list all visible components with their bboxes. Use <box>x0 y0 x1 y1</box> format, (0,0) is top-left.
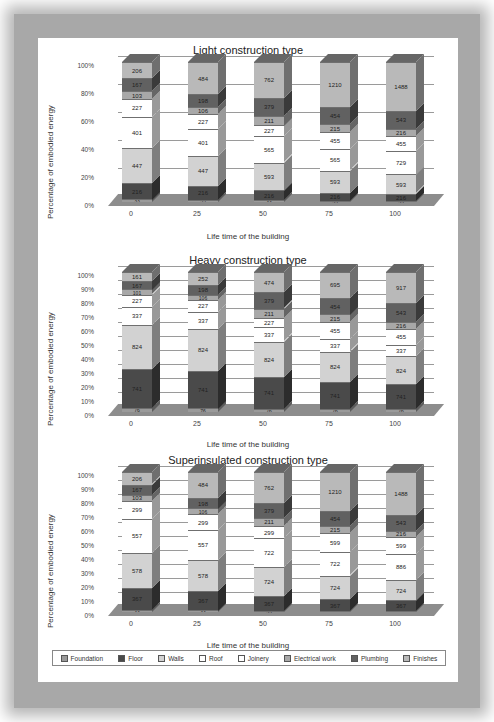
bar-segment-roof: 886 <box>386 554 416 580</box>
legend-swatch-icon <box>403 655 410 662</box>
bar-segment-finishes: 252 <box>188 272 218 285</box>
stacked-bar: 76741824337455216543917 <box>386 272 416 412</box>
bar-side <box>416 54 424 111</box>
x-tick-label: 75 <box>314 620 344 627</box>
bar-segment-roof: 337 <box>122 307 152 325</box>
y-tick-label: 0% <box>68 202 94 209</box>
bar-segment-foundation: 33 <box>188 200 218 202</box>
bar-segment-roof: 557 <box>188 530 218 560</box>
y-tick-label: 20% <box>68 584 94 591</box>
stacked-bar: 33367724722299211379762 <box>254 472 284 612</box>
y-tick-label: 90% <box>68 286 94 293</box>
bar-segment-finishes: 206 <box>122 62 152 78</box>
legend-label: Roof <box>209 655 223 662</box>
bar-segment-floor: 741 <box>320 382 350 409</box>
stacked-bar: 33367578557299106198484 <box>188 472 218 612</box>
bar-segment-roof: 337 <box>188 312 218 329</box>
x-tick-label: 50 <box>248 620 278 627</box>
bar-segment-electrical-work: 215 <box>320 314 350 322</box>
legend-item: Joinery <box>238 655 269 662</box>
bar-segment-walls: 824 <box>386 356 416 384</box>
stacked-bar: 33216447401227106198484 <box>188 62 218 202</box>
bar-segment-electrical-work: 103 <box>122 495 152 501</box>
y-tick-label: 50% <box>68 542 94 549</box>
legend-item: Floor <box>118 655 143 662</box>
bar-segment-finishes: 484 <box>188 472 218 498</box>
bar-segment-foundation: 33 <box>254 200 284 202</box>
bar-segment-electrical-work: 211 <box>254 309 284 318</box>
bar-segment-walls: 824 <box>122 325 152 369</box>
legend-label: Joinery <box>248 655 269 662</box>
bar-segment-plumbing: 167 <box>122 281 152 290</box>
bar-segment-walls: 824 <box>320 352 350 382</box>
y-tick-label: 100% <box>68 62 94 69</box>
y-tick-label: 10% <box>68 398 94 405</box>
bar-segment-electrical-work: 216 <box>386 531 416 537</box>
x-tick-label: 0 <box>116 210 146 217</box>
bar-segment-floor: 741 <box>254 377 284 409</box>
x-tick-label: 25 <box>182 210 212 217</box>
y-tick-label: 20% <box>68 174 94 181</box>
bar-segment-roof: 565 <box>254 136 284 162</box>
bar-segment-walls: 593 <box>386 174 416 193</box>
bar-segment-roof: 337 <box>320 339 350 351</box>
chart-light: Light construction type Percentage of em… <box>38 44 458 244</box>
bar-segment-plumbing: 167 <box>122 78 152 91</box>
bar-segment-foundation: 76 <box>386 409 416 412</box>
legend-item: Roof <box>199 655 223 662</box>
bar-segment-foundation: 76 <box>254 409 284 412</box>
bar-side <box>350 54 358 107</box>
bar-segment-joinery: 599 <box>386 537 416 554</box>
bar-segment-plumbing: 198 <box>188 285 218 295</box>
legend-label: Walls <box>168 655 184 662</box>
bar-side <box>218 321 226 371</box>
bar-side <box>152 361 160 408</box>
y-tick-label: 90% <box>68 486 94 493</box>
x-tick-label: 50 <box>248 420 278 427</box>
bar-segment-finishes: 762 <box>254 62 284 98</box>
bar-segment-finishes: 1488 <box>386 62 416 111</box>
bar-segment-floor: 216 <box>122 183 152 200</box>
bar-side <box>152 317 160 369</box>
y-tick-label: 70% <box>68 314 94 321</box>
bar-segment-joinery: 299 <box>188 514 218 530</box>
bar-segment-foundation: 33 <box>122 610 152 612</box>
bar-segment-roof: 729 <box>386 151 416 175</box>
legend-label: Finishes <box>413 655 437 662</box>
bar-segment-roof: 722 <box>254 538 284 567</box>
chart-superinsulated: Superinsulated construction type Percent… <box>38 454 458 654</box>
x-tick-label: 0 <box>116 620 146 627</box>
x-tick-label: 25 <box>182 620 212 627</box>
bar-segment-walls: 578 <box>188 560 218 591</box>
bar-segment-finishes: 206 <box>122 472 152 484</box>
legend-swatch-icon <box>118 655 125 662</box>
bar-segment-walls: 447 <box>188 156 218 186</box>
bar-segment-joinery: 299 <box>122 501 152 519</box>
bar-segment-electrical-work: 216 <box>386 129 416 136</box>
legend-label: Plumbing <box>361 655 388 662</box>
bar-segment-walls: 578 <box>122 553 152 588</box>
legend-swatch-icon <box>351 655 358 662</box>
y-tick-label: 40% <box>68 556 94 563</box>
stacked-bar: 332165935654552154541210 <box>320 62 350 202</box>
x-tick-label: 100 <box>380 210 410 217</box>
bar-segment-joinery: 227 <box>122 99 152 117</box>
bar-segment-joinery: 299 <box>254 526 284 538</box>
bar-segment-electrical-work: 106 <box>188 107 218 114</box>
bar-side <box>350 464 358 511</box>
bar-segment-joinery: 455 <box>320 132 350 149</box>
bar-segment-roof: 565 <box>320 149 350 170</box>
stacked-bar: 333677248865992165431488 <box>386 472 416 612</box>
chart-heavy: Heavy construction type Percentage of em… <box>38 254 458 454</box>
stacked-bar: 76741824337227101167161 <box>122 272 152 412</box>
y-tick-label: 40% <box>68 146 94 153</box>
bar-segment-roof: 557 <box>122 519 152 553</box>
bar-segment-foundation: 33 <box>122 199 152 202</box>
y-tick-label: 0% <box>68 412 94 419</box>
legend-swatch-icon <box>238 655 245 662</box>
bar-segment-plumbing: 543 <box>386 303 416 322</box>
bar-segment-joinery: 455 <box>386 329 416 345</box>
bar-segment-finishes: 1210 <box>320 62 350 107</box>
bar-segment-floor: 216 <box>386 194 416 201</box>
bar-segment-walls: 724 <box>320 576 350 599</box>
